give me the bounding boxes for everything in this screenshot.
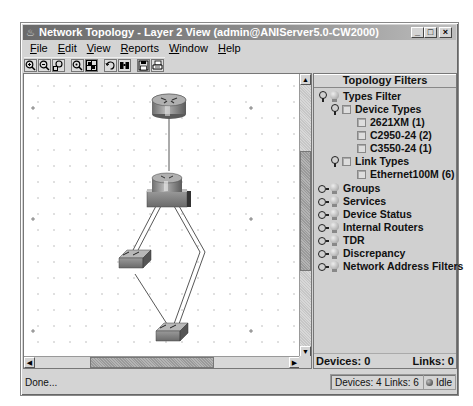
menu-window[interactable]: Window — [164, 41, 213, 55]
save-button[interactable] — [137, 59, 150, 72]
filtered-links-count: Links: 0 — [412, 354, 454, 368]
status-indicators: Devices: 4 Links: 6 Idle — [330, 374, 456, 390]
router-device — [152, 94, 186, 119]
topology-graph — [24, 74, 300, 357]
menu-file-rest: ile — [37, 42, 48, 54]
find-binoculars-icon — [119, 60, 130, 71]
tree-item-discrepancy[interactable]: Discrepancy — [318, 247, 405, 259]
network-address-filters-label: Network Address Filters — [343, 260, 463, 272]
tree-item-device-type[interactable]: C3550-24 (1) — [357, 142, 432, 154]
title-bar[interactable]: ♨ Network Topology - Layer 2 View (admin… — [23, 25, 456, 40]
zoom-region-button[interactable] — [52, 59, 65, 72]
horizontal-scrollbar[interactable]: ◀ ▶ — [24, 356, 300, 368]
layer3-switch-device — [147, 173, 191, 207]
tree-item-device-type[interactable]: 2621XM (1) — [357, 116, 425, 128]
filter-bulb-icon[interactable] — [330, 248, 339, 259]
menu-bar: File Edit View Reports Window Help — [25, 41, 246, 55]
filter-bulb-icon[interactable] — [330, 222, 339, 233]
filter-bulb-icon[interactable] — [330, 91, 339, 102]
tree-item-link-type[interactable]: Ethernet100M (6) — [357, 168, 455, 180]
vertical-scroll-thumb[interactable] — [300, 151, 311, 271]
status-indicator-icon — [426, 379, 433, 386]
collapsed-handle-icon[interactable] — [318, 248, 328, 258]
status-state-label: Idle — [436, 375, 452, 390]
menu-file-mnemonic: F — [30, 42, 37, 54]
topology-canvas[interactable] — [24, 74, 300, 357]
device-type-checkbox[interactable] — [357, 118, 366, 127]
groups-label: Groups — [343, 182, 380, 194]
collapsed-handle-icon[interactable] — [318, 235, 328, 245]
filter-bulb-icon[interactable] — [330, 183, 339, 194]
expanded-handle-icon[interactable] — [318, 91, 328, 101]
link-types-checkbox[interactable] — [342, 157, 351, 166]
horizontal-scroll-thumb[interactable] — [90, 357, 214, 368]
zoom-out-button[interactable] — [38, 59, 51, 72]
types-filter-label: Types Filter — [343, 90, 401, 102]
layout-button[interactable] — [85, 59, 98, 72]
menu-edit[interactable]: Edit — [53, 41, 82, 55]
collapsed-handle-icon[interactable] — [318, 183, 328, 193]
tree-item-device-types[interactable]: Device Types — [330, 103, 421, 115]
internal-routers-label: Internal Routers — [343, 221, 424, 233]
scroll-corner — [299, 356, 311, 368]
find-button[interactable] — [118, 59, 131, 72]
filter-bulb-icon[interactable] — [330, 261, 339, 272]
zoom-in-icon — [25, 60, 36, 71]
link-type-checkbox[interactable] — [357, 170, 366, 179]
tree-item-services[interactable]: Services — [318, 195, 386, 207]
filter-bulb-icon[interactable] — [330, 209, 339, 220]
menu-file[interactable]: File — [25, 41, 53, 55]
tree-item-device-status[interactable]: Device Status — [318, 208, 412, 220]
tree-item-network-address-filters[interactable]: Network Address Filters — [318, 260, 463, 272]
device-type-checkbox[interactable] — [357, 131, 366, 140]
device-link-count: Devices: 4 Links: 6 — [331, 375, 424, 389]
status-bar: Done... Devices: 4 Links: 6 Idle — [23, 372, 456, 392]
filter-bulb-icon[interactable] — [330, 235, 339, 246]
menu-reports-rest: eports — [128, 42, 159, 54]
close-button[interactable]: × — [439, 27, 452, 38]
refresh-icon — [105, 60, 116, 71]
device-type-label: C2950-24 (2) — [370, 129, 432, 141]
zoom-in-button[interactable] — [24, 59, 37, 72]
filtered-devices-count: Devices: 0 — [316, 354, 370, 368]
expanded-handle-icon[interactable] — [330, 104, 340, 114]
device-type-checkbox[interactable] — [357, 144, 366, 153]
zoom-fit-icon — [72, 60, 83, 71]
menu-view[interactable]: View — [82, 41, 116, 55]
tree-item-types-filter[interactable]: Types Filter — [318, 90, 401, 102]
collapsed-handle-icon[interactable] — [318, 209, 328, 219]
expanded-handle-icon[interactable] — [330, 156, 340, 166]
minimize-button[interactable]: _ — [411, 27, 424, 38]
zoom-fit-button[interactable] — [71, 59, 84, 72]
link-types-label: Link Types — [355, 155, 409, 167]
menu-edit-mnemonic: E — [58, 42, 65, 54]
menu-edit-rest: dit — [65, 42, 77, 54]
device-types-label: Device Types — [355, 103, 421, 115]
filters-header: Topology Filters — [314, 74, 456, 88]
window-controls: _ □ × — [411, 27, 452, 38]
tree-item-tdr[interactable]: TDR — [318, 234, 365, 246]
print-button[interactable] — [151, 59, 164, 72]
menu-window-rest: indow — [179, 42, 208, 54]
tree-item-groups[interactable]: Groups — [318, 182, 380, 194]
device-types-checkbox[interactable] — [342, 105, 351, 114]
collapsed-handle-icon[interactable] — [318, 222, 328, 232]
menu-reports[interactable]: Reports — [115, 41, 164, 55]
scroll-up-button[interactable]: ▲ — [300, 74, 311, 85]
tree-item-device-type[interactable]: C2950-24 (2) — [357, 129, 432, 141]
services-label: Services — [343, 195, 386, 207]
menu-view-mnemonic: V — [87, 42, 94, 54]
tree-item-internal-routers[interactable]: Internal Routers — [318, 221, 424, 233]
collapsed-handle-icon[interactable] — [318, 261, 328, 271]
zoom-out-icon — [39, 60, 50, 71]
device-type-label: 2621XM (1) — [370, 116, 425, 128]
collapsed-handle-icon[interactable] — [318, 196, 328, 206]
scroll-left-button[interactable]: ◀ — [24, 357, 35, 368]
maximize-button[interactable]: □ — [424, 27, 437, 38]
filter-bulb-icon[interactable] — [330, 196, 339, 207]
toolbar — [24, 57, 165, 72]
vertical-scrollbar[interactable]: ▲ ▼ — [299, 74, 311, 357]
refresh-button[interactable] — [104, 59, 117, 72]
menu-help[interactable]: Help — [213, 41, 246, 55]
tree-item-link-types[interactable]: Link Types — [330, 155, 409, 167]
